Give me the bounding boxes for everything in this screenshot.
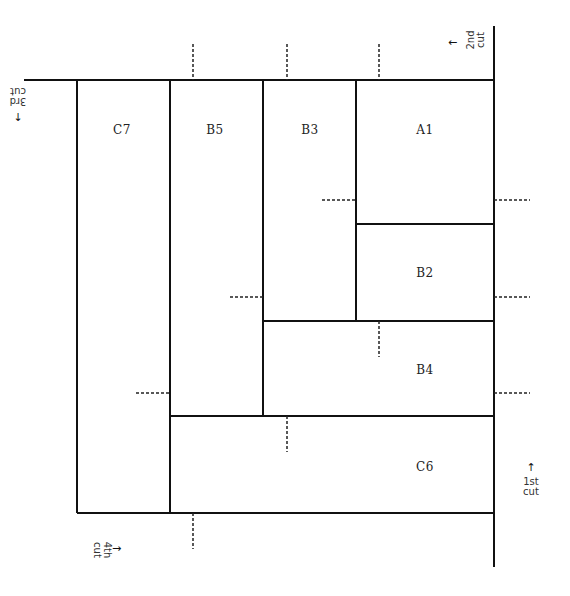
- arrow-up-icon: ↑: [516, 462, 546, 473]
- fourth-cut-label-line1: 4th: [102, 536, 112, 564]
- third-cut-annotation: 3rd cut ↓: [4, 86, 32, 123]
- fourth-cut-annotation: 4th cut →: [84, 536, 134, 566]
- panel-label-a1: A1: [416, 123, 433, 137]
- second-cut-annotation: ← 2nd cut: [446, 28, 496, 56]
- fourth-cut-label: 4th cut: [84, 536, 112, 566]
- first-cut-annotation: ↑ 1st cut: [516, 462, 546, 497]
- panel-label-b5: B5: [206, 123, 223, 137]
- panel-label-b3: B3: [301, 123, 318, 137]
- second-cut-label: 2nd cut: [466, 26, 494, 56]
- solid-cut-lines: [24, 26, 494, 567]
- third-cut-label-line1: 3rd: [4, 96, 32, 106]
- arrow-right-icon: →: [112, 543, 121, 554]
- cutting-diagram: [0, 0, 570, 596]
- arrow-left-icon: ←: [448, 37, 457, 48]
- arrow-down-icon: ↓: [4, 112, 32, 123]
- dashed-marks: [136, 44, 530, 549]
- second-cut-label-line2: cut: [476, 26, 486, 54]
- panel-label-c6: C6: [416, 460, 434, 474]
- third-cut-label-line2: cut: [4, 86, 32, 96]
- panel-label-b4: B4: [416, 363, 433, 377]
- panel-label-b2: B2: [416, 266, 433, 280]
- panel-label-c7: C7: [113, 123, 131, 137]
- first-cut-label-line2: cut: [516, 487, 546, 497]
- fourth-cut-label-line2: cut: [92, 536, 102, 564]
